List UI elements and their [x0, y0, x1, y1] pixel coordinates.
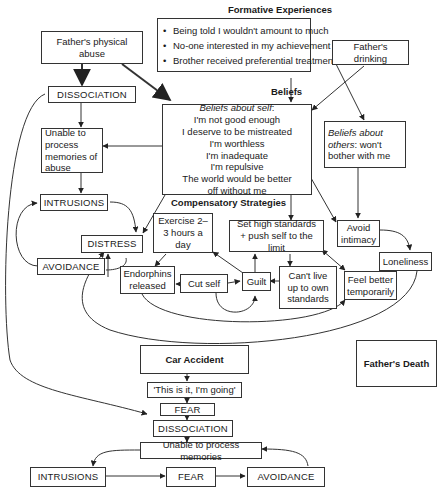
high-standards-label: Set high standards + push self to the li… [233, 218, 320, 254]
cut-self-label: Cut self [188, 278, 220, 290]
guilt-box: Guilt [242, 272, 271, 291]
avoid-intimacy-box: Avoid intimacy [337, 220, 380, 247]
guilt-label: Guilt [247, 276, 267, 288]
formative-experiences-box: Being told I wouldn't amount to much No-… [157, 18, 311, 72]
intrusions-label: INTRUSIONS [38, 471, 99, 483]
avoidance-label: AVOIDANCE [42, 261, 99, 273]
this-is-it-box: 'This is it, I'm going' [147, 382, 242, 398]
this-is-it-label: 'This is it, I'm going' [154, 384, 236, 396]
formative-item: Brother received preferential treatment [173, 53, 336, 68]
dissociation-box-bottom: DISSOCIATION [153, 420, 233, 437]
distress-box: DISTRESS [81, 235, 143, 253]
fathers-death-label: Father's Death [364, 358, 430, 370]
cant-live-up-label: Can't live up to own standards [283, 270, 333, 306]
endorphins-label: Endorphins released [123, 268, 171, 292]
avoidance-box-bottom: AVOIDANCE [247, 467, 325, 487]
heading-formative-experiences: Formative Experiences [228, 4, 332, 15]
exercise-box: Exercise 2–3 hours a day [153, 213, 213, 253]
unable-process-abuse-box: Unable to process memories of abuse [41, 128, 103, 173]
heading-beliefs: Beliefs [271, 86, 302, 97]
avoidance-label: AVOIDANCE [257, 471, 314, 483]
intrusions-label: INTRUSIONS [44, 197, 105, 209]
car-accident-label: Car Accident [165, 354, 223, 366]
beliefs-about-self-box: Beliefs about self: I'm not good enough … [162, 104, 312, 195]
avoid-intimacy-label: Avoid intimacy [341, 222, 376, 246]
feel-better-box: Feel better temporarily [344, 271, 397, 300]
beliefs-about-self-title: Beliefs about self [200, 102, 272, 113]
endorphins-box: Endorphins released [120, 266, 175, 294]
formative-experiences-list: Being told I wouldn't amount to much No-… [161, 23, 336, 68]
fathers-drinking-label: Father's drinking [336, 41, 405, 65]
loneliness-box: Loneliness [379, 252, 432, 271]
belief-item: I'm worthless [209, 138, 264, 150]
fear-box-mid: FEAR [160, 403, 215, 416]
unable-process-memories-label: Unable to process memories [144, 439, 258, 463]
intrusions-box-top: INTRUSIONS [40, 194, 108, 211]
cut-self-box: Cut self [180, 274, 228, 293]
high-standards-box: Set high standards + push self to the li… [229, 220, 324, 252]
belief-item: I deserve to be mistreated [182, 126, 292, 138]
belief-item: I'm inadequate [206, 150, 268, 162]
fear-box-bottom: FEAR [166, 467, 216, 487]
fathers-abuse-box: Father's physical abuse [41, 31, 143, 64]
heading-compensatory-strategies: Compensatory Strategies [171, 197, 286, 208]
feel-better-label: Feel better temporarily [347, 274, 394, 298]
dissociation-box-top: DISSOCIATION [48, 86, 136, 103]
fathers-abuse-label: Father's physical abuse [56, 36, 128, 60]
avoidance-box-top: AVOIDANCE [37, 258, 105, 275]
intrusions-box-bottom: INTRUSIONS [30, 467, 106, 487]
formative-item: Being told I wouldn't amount to much [173, 23, 336, 38]
cant-live-up-box: Can't live up to own standards [279, 266, 337, 309]
belief-item: The world would be better off without me [177, 173, 297, 197]
unable-process-abuse-label: Unable to process memories of abuse [45, 127, 99, 175]
beliefs-about-others-box: Beliefs about others: won't bother with … [324, 121, 406, 168]
fathers-drinking-box: Father's drinking [332, 40, 409, 65]
unable-process-memories-box: Unable to process memories [140, 442, 262, 459]
loneliness-label: Loneliness [383, 256, 428, 268]
belief-item: I'm not good enough [194, 114, 280, 126]
belief-item: I'm repulsive [210, 161, 263, 173]
dissociation-label: DISSOCIATION [57, 89, 127, 101]
fathers-death-box: Father's Death [356, 340, 437, 387]
exercise-label: Exercise 2–3 hours a day [158, 215, 208, 251]
fear-label: FEAR [178, 471, 204, 483]
formulation-diagram: Formative Experiences Beliefs Compensato… [0, 0, 443, 502]
distress-label: DISTRESS [87, 238, 136, 250]
formative-item: No-one interested in my achievement [173, 38, 336, 53]
fear-label: FEAR [174, 404, 200, 416]
car-accident-box: Car Accident [140, 345, 249, 374]
dissociation-label: DISSOCIATION [158, 423, 228, 435]
